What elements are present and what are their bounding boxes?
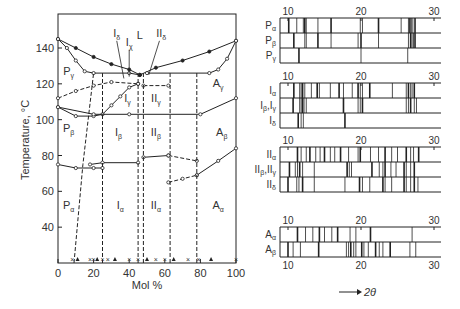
phase-line-beta-alpha-II-dashed bbox=[168, 156, 196, 161]
pattern-label: Iβ,Iγ bbox=[260, 100, 276, 113]
region-label: Iδ bbox=[113, 27, 120, 41]
region-label: IIβ bbox=[151, 126, 161, 141]
pattern-label: Iα bbox=[269, 85, 276, 97]
phase-line-beta-alpha-I bbox=[90, 163, 138, 165]
pattern-label: Iδ bbox=[269, 115, 276, 127]
pattern-label: Aβ bbox=[265, 244, 276, 257]
phase-line-solidus-right bbox=[147, 41, 236, 73]
pattern-label: IIδ bbox=[267, 179, 277, 191]
two-theta-tick-label: 30 bbox=[428, 71, 440, 82]
data-point bbox=[181, 59, 184, 62]
xrd-group-II: 102030IIαIIβ,IIγIIδ bbox=[255, 135, 441, 192]
data-point bbox=[234, 39, 237, 42]
x-marker: × bbox=[100, 256, 104, 263]
y-tick-label: 40 bbox=[42, 221, 54, 233]
data-point bbox=[110, 63, 113, 66]
figure-canvas: 406080100120140020406080100××××××××××××L… bbox=[0, 0, 460, 309]
xrd-patterns: 102030PαPβPγ102030IαIβ,IγIδ102030IIαIIβ,… bbox=[255, 6, 441, 298]
triangle-marker bbox=[76, 257, 80, 261]
phase-line-beta-alpha-A-solid bbox=[197, 148, 236, 175]
phase-line-beta-alpha-II bbox=[143, 156, 168, 158]
data-point bbox=[208, 50, 211, 53]
two-theta-tick-label: 30 bbox=[428, 260, 440, 271]
x-marker: × bbox=[92, 256, 96, 263]
x-marker: × bbox=[106, 256, 110, 263]
data-point bbox=[138, 73, 141, 76]
triangle-marker bbox=[209, 257, 213, 261]
data-point bbox=[181, 177, 184, 180]
x-tick-label: 40 bbox=[123, 267, 135, 279]
leader-line bbox=[149, 41, 160, 75]
two-theta-tick-label: 30 bbox=[428, 6, 440, 17]
pattern-label: Pγ bbox=[266, 50, 277, 63]
x-tick-label: 20 bbox=[87, 267, 99, 279]
x-marker: × bbox=[234, 256, 238, 263]
two-theta-tick-label: 30 bbox=[428, 135, 440, 146]
data-point bbox=[119, 95, 122, 98]
x-tick-label: 100 bbox=[227, 267, 245, 279]
data-point bbox=[74, 59, 77, 62]
data-point bbox=[56, 163, 59, 166]
two-theta-tick-label: 20 bbox=[355, 71, 367, 82]
y-tick-label: 140 bbox=[36, 42, 54, 54]
data-point bbox=[92, 166, 95, 169]
two-theta-tick-label: 10 bbox=[282, 71, 294, 82]
y-tick-label: 80 bbox=[42, 150, 54, 162]
data-point bbox=[74, 89, 77, 92]
data-point bbox=[74, 114, 77, 117]
two-theta-tick-label: 20 bbox=[355, 215, 367, 226]
data-point bbox=[92, 55, 95, 58]
data-point bbox=[56, 37, 59, 40]
region-label: IIγ bbox=[151, 92, 161, 107]
phase-line-beta-alpha-left bbox=[58, 165, 103, 169]
data-point bbox=[56, 106, 59, 109]
pattern-label: IIβ,IIγ bbox=[255, 164, 277, 177]
region-label: Pα bbox=[63, 199, 74, 213]
two-theta-tick-label: 10 bbox=[282, 135, 294, 146]
xrd-group-A: 102030AαAβ bbox=[265, 215, 441, 257]
y-tick-label: 120 bbox=[36, 78, 54, 90]
region-label: Iχ bbox=[126, 36, 133, 51]
pattern-label: Pα bbox=[265, 20, 276, 32]
pattern-label: Pβ bbox=[265, 35, 276, 48]
data-point bbox=[128, 113, 131, 116]
y-tick-label: 100 bbox=[36, 114, 54, 126]
triangle-marker bbox=[95, 257, 99, 261]
triangle-marker bbox=[145, 257, 149, 261]
data-point bbox=[110, 80, 113, 83]
x-marker: × bbox=[163, 256, 167, 263]
triangle-marker bbox=[113, 257, 117, 261]
data-point bbox=[128, 86, 131, 89]
two-theta-tick-label: 20 bbox=[355, 6, 367, 17]
two-theta-tick-label: 10 bbox=[282, 6, 294, 17]
data-point bbox=[217, 68, 220, 71]
data-point bbox=[208, 71, 211, 74]
x-marker: × bbox=[70, 256, 74, 263]
phase-diagram: 406080100120140020406080100××××××××××××L… bbox=[36, 14, 246, 279]
region-label: IIα bbox=[151, 199, 161, 213]
x-marker: × bbox=[197, 256, 201, 263]
pattern-label: IIα bbox=[266, 149, 276, 161]
data-point bbox=[56, 97, 59, 100]
phase-line-gamma-beta-line bbox=[58, 98, 236, 114]
data-point bbox=[110, 104, 113, 107]
x-tick-label: 60 bbox=[159, 267, 171, 279]
triangle-marker bbox=[172, 257, 176, 261]
data-point bbox=[88, 163, 91, 166]
data-point bbox=[234, 147, 237, 150]
region-label: Iγ bbox=[124, 92, 131, 107]
data-point bbox=[65, 46, 68, 49]
region-label: L bbox=[137, 29, 143, 41]
x-marker: × bbox=[127, 256, 131, 263]
two-theta-tick-label: 20 bbox=[355, 260, 367, 271]
x-tick-label: 0 bbox=[55, 267, 61, 279]
data-point bbox=[234, 97, 237, 100]
data-point bbox=[74, 46, 77, 49]
region-label: Iα bbox=[117, 199, 124, 213]
data-point bbox=[154, 66, 157, 69]
region-label: Aα bbox=[213, 199, 224, 213]
data-point bbox=[226, 57, 229, 60]
x-tick-label: 80 bbox=[194, 267, 206, 279]
data-point bbox=[145, 71, 148, 74]
xrd-group-P: 102030PαPβPγ bbox=[265, 6, 441, 63]
